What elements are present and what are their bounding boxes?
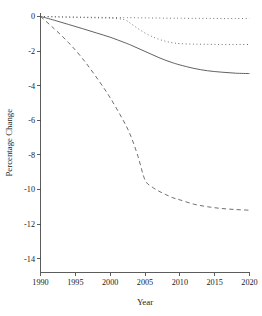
x-axis-title: Year (137, 297, 153, 307)
y-tick-label: -10 (24, 185, 35, 194)
y-tick-label: 0 (31, 12, 35, 21)
y-tick-label: -2 (28, 47, 35, 56)
x-tick-label: 2010 (172, 278, 188, 287)
chart-container: 0-2-4-6-8-10-12-14 199019952000200520102… (0, 0, 262, 316)
x-tick-label: 1995 (67, 278, 83, 287)
series-dashed (41, 16, 250, 210)
series-solid (41, 16, 250, 73)
x-tick-label: 1990 (32, 278, 48, 287)
x-axis-ticks: 1990199520002005201020152020 (32, 273, 257, 287)
x-tick-label: 2020 (241, 278, 257, 287)
data-series-group (41, 16, 250, 210)
y-axis-title: Percentage Change (4, 109, 14, 177)
line-chart: 0-2-4-6-8-10-12-14 199019952000200520102… (0, 0, 262, 316)
y-axis-ticks: 0-2-4-6-8-10-12-14 (24, 12, 40, 263)
x-tick-label: 2015 (206, 278, 222, 287)
series-flat-dotted (41, 16, 250, 18)
y-tick-label: -12 (24, 220, 35, 229)
y-tick-label: -6 (28, 116, 35, 125)
x-tick-label: 2000 (102, 278, 118, 287)
y-tick-label: -14 (24, 255, 35, 264)
y-tick-label: -4 (28, 82, 35, 91)
y-tick-label: -8 (28, 151, 35, 160)
x-tick-label: 2005 (137, 278, 153, 287)
series-step-dotted (41, 16, 250, 44)
